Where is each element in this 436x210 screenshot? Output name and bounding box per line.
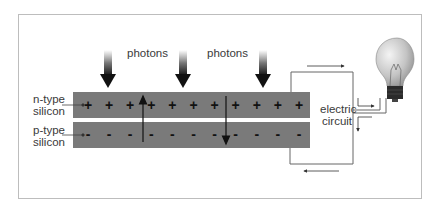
negative-charge: - (170, 126, 175, 142)
negative-charge: - (276, 126, 281, 142)
negative-charge: - (254, 126, 259, 142)
negative-charge: - (297, 126, 302, 142)
positive-charge: + (168, 97, 176, 113)
positive-charge: + (84, 97, 92, 113)
positive-charge: + (253, 97, 261, 113)
p-type-leader-dot (82, 134, 85, 137)
solar-cell-diagram: +++++++++++ ----------- photons photons … (0, 0, 436, 210)
negative-charge: - (149, 126, 154, 142)
photons-label: photons (127, 47, 168, 59)
n-type-label: n-type (33, 93, 65, 105)
n-type-leader-dot (82, 104, 85, 107)
electric-circuit-label: electric (320, 103, 357, 115)
current-arrow-from-bulb (358, 117, 372, 131)
positive-charge: + (105, 97, 113, 113)
positive-charge: + (274, 97, 282, 113)
bulb-wire-left (353, 98, 380, 110)
positive-charge: + (295, 97, 303, 113)
positive-charge: + (211, 97, 219, 113)
positive-charge: + (126, 97, 134, 113)
positive-charge: + (232, 97, 240, 113)
negative-charge: - (86, 126, 91, 142)
photons-label: photons (207, 47, 248, 59)
current-arrow-to-bulb (358, 98, 374, 106)
p-type-label: silicon (33, 136, 65, 148)
photon-arrow-icon (175, 50, 191, 88)
photon-arrow-icon (100, 50, 116, 88)
negative-charge: - (212, 126, 217, 142)
negative-charge: - (128, 126, 133, 142)
negative-charge: - (233, 126, 238, 142)
positive-charge: + (147, 97, 155, 113)
photon-arrow-icon (255, 50, 271, 88)
n-type-label: silicon (33, 105, 65, 117)
positive-charge: + (189, 97, 197, 113)
negative-charge: - (107, 126, 112, 142)
light-bulb-icon (376, 38, 414, 102)
negative-charge: - (191, 126, 196, 142)
p-type-label: p-type (33, 124, 65, 136)
electric-circuit-label: circuit (322, 115, 353, 127)
